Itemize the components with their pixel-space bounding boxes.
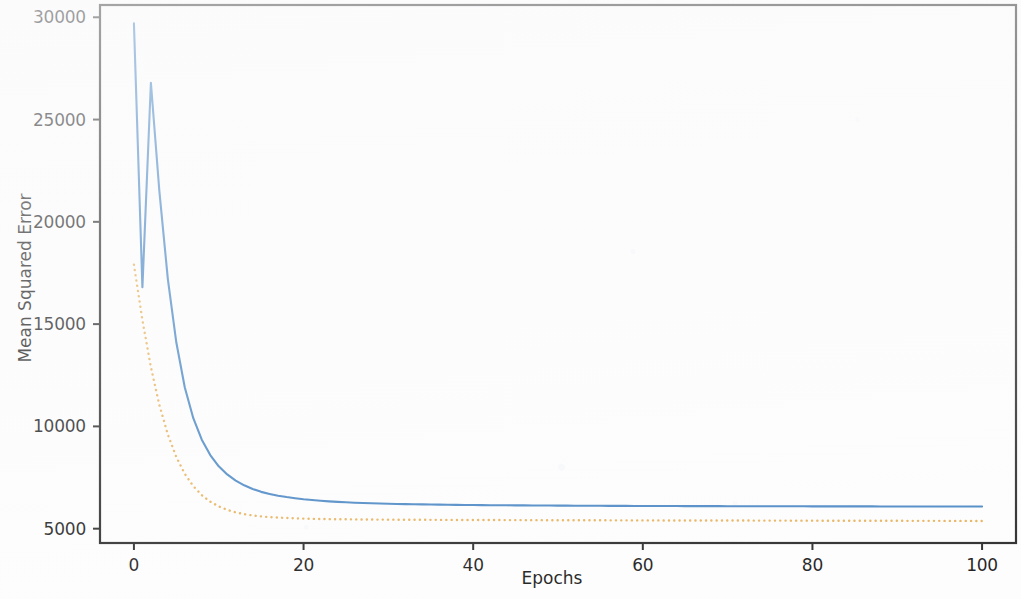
y-axis-label: Mean Squared Error xyxy=(15,188,35,368)
plot-border xyxy=(100,5,1016,543)
y-tick-label: 20000 xyxy=(0,212,86,232)
x-tick-label: 20 xyxy=(293,555,314,575)
plot-canvas xyxy=(0,0,1021,599)
series-line-validation xyxy=(134,265,982,521)
x-axis-label: Epochs xyxy=(402,568,702,588)
chart-figure: 5000100001500020000250003000002040608010… xyxy=(0,0,1021,599)
y-tick-label: 30000 xyxy=(0,7,86,27)
y-tick-label: 25000 xyxy=(0,110,86,130)
x-tick-label: 80 xyxy=(802,555,823,575)
axis-ticks xyxy=(93,17,982,550)
axes-frame xyxy=(100,5,1016,543)
y-tick-label: 15000 xyxy=(0,314,86,334)
x-tick-label: 0 xyxy=(129,555,140,575)
series-line-training xyxy=(134,23,982,506)
y-tick-label: 10000 xyxy=(0,416,86,436)
data-series-group xyxy=(134,23,982,521)
x-tick-label: 100 xyxy=(966,555,998,575)
y-tick-label: 5000 xyxy=(0,519,86,539)
